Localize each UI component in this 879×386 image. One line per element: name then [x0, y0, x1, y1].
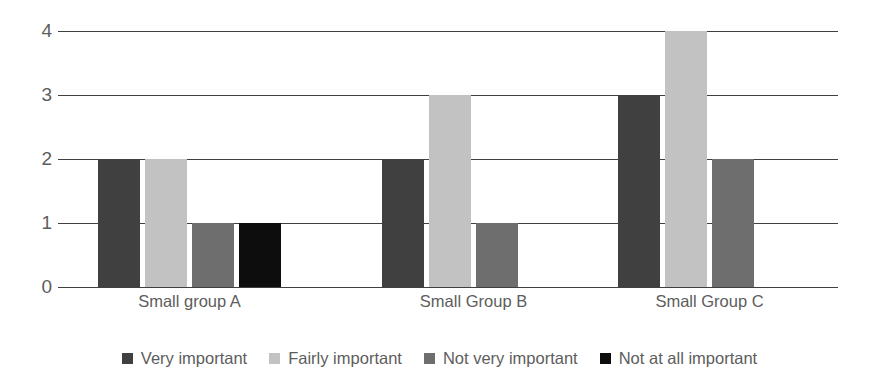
y-tick-label-4: 4 [30, 20, 52, 42]
legend-label: Not at all important [619, 350, 757, 367]
chart-legend: Very importantFairly importantNot very i… [0, 350, 879, 367]
bar-2-1 [382, 159, 424, 287]
legend-item-2[interactable]: Fairly important [269, 350, 402, 367]
legend-label: Fairly important [288, 350, 402, 367]
bar-1-2 [145, 159, 187, 287]
bar-1-4 [239, 223, 281, 287]
bar-1-1 [98, 159, 140, 287]
bar-3-2 [665, 31, 707, 287]
bar-2-3 [476, 223, 518, 287]
y-tick-label-1: 1 [30, 212, 52, 234]
bar-2-2 [429, 95, 471, 287]
bar-3-1 [618, 95, 660, 287]
legend-label: Very important [141, 350, 247, 367]
gridline-4 [58, 31, 838, 32]
legend-item-4[interactable]: Not at all important [600, 350, 757, 367]
category-label-2: Small Group B [420, 292, 527, 311]
plot-area [58, 31, 838, 287]
legend-label: Not very important [443, 350, 578, 367]
bar-chart: 01234 Small group ASmall Group BSmall Gr… [0, 0, 879, 386]
y-tick-label-3: 3 [30, 84, 52, 106]
legend-swatch-icon [269, 353, 280, 364]
y-tick-label-0: 0 [30, 276, 52, 298]
y-tick-label-2: 2 [30, 148, 52, 170]
legend-item-3[interactable]: Not very important [424, 350, 578, 367]
legend-swatch-icon [122, 353, 133, 364]
legend-item-1[interactable]: Very important [122, 350, 247, 367]
legend-swatch-icon [424, 353, 435, 364]
bar-1-3 [192, 223, 234, 287]
legend-swatch-icon [600, 353, 611, 364]
gridline-0 [58, 287, 838, 288]
category-label-1: Small group A [138, 292, 241, 311]
category-label-3: Small Group C [655, 292, 763, 311]
bar-3-3 [712, 159, 754, 287]
